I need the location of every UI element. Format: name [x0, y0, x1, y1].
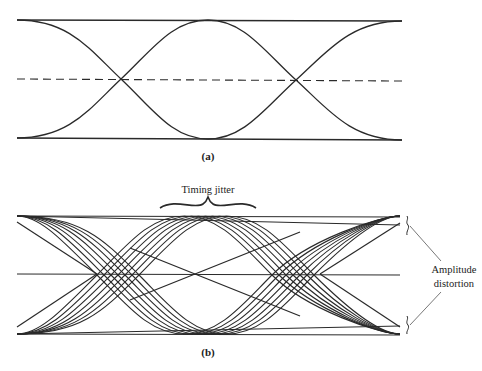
panel-b-threshold-line [17, 274, 400, 275]
panel-a-threshold-dashed [17, 79, 402, 81]
panel-a-eye-pattern [17, 20, 402, 140]
eye-diagram-figure: (a) Timing jitter Amplitude distortion (… [0, 0, 482, 371]
panel-a-caption: (a) [202, 150, 215, 163]
amplitude-leader-top [410, 226, 441, 261]
amplitude-distortion-label-line1: Amplitude [432, 264, 477, 275]
panel-b-slant-line [320, 274, 400, 327]
amplitude-brace-top [407, 216, 409, 235]
amplitude-brace-bottom [407, 316, 409, 334]
timing-jitter-label: Timing jitter [182, 184, 236, 195]
panel-b-caption: (b) [201, 346, 215, 359]
amplitude-leader-bottom [410, 292, 441, 325]
amplitude-distortion-label-line2: distortion [434, 278, 475, 289]
panel-b-slant-line [320, 223, 400, 274]
timing-jitter-brace [160, 197, 256, 208]
